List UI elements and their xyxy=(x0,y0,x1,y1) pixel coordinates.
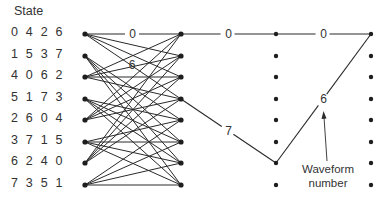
waveform-label: 6 xyxy=(320,92,327,106)
trellis-node xyxy=(82,182,87,187)
trellis-node xyxy=(274,75,278,79)
waveform-label: 0 xyxy=(320,27,327,41)
trellis-node xyxy=(369,161,373,165)
trellis-node xyxy=(274,97,278,101)
trellis-node xyxy=(274,183,278,187)
trellis-node xyxy=(274,54,278,58)
trellis-edge xyxy=(85,163,181,185)
trellis-node xyxy=(82,96,87,101)
waveform-label: 7 xyxy=(225,124,232,138)
trellis-node xyxy=(178,117,183,122)
waveform-label: 0 xyxy=(225,27,232,41)
annotation-arrow xyxy=(324,117,327,161)
trellis-node xyxy=(178,31,183,36)
trellis-node xyxy=(82,117,87,122)
trellis-node xyxy=(369,32,373,36)
path-edge xyxy=(181,99,222,126)
trellis-node xyxy=(178,160,183,165)
trellis-node xyxy=(274,161,278,165)
trellis-edges xyxy=(85,34,181,185)
waveform-label: 6 xyxy=(129,58,136,72)
path-edge xyxy=(276,105,318,163)
trellis-node xyxy=(274,32,278,36)
trellis-edge xyxy=(85,120,181,185)
annotation-text: number xyxy=(309,177,348,189)
trellis-node xyxy=(82,53,87,58)
waveform-number-annotation: Waveformnumber xyxy=(302,111,354,189)
trellis-node xyxy=(82,74,87,79)
trellis-node xyxy=(178,139,183,144)
trellis-edge xyxy=(85,34,181,163)
trellis-node xyxy=(369,140,373,144)
arrowhead-icon xyxy=(322,111,327,119)
trellis-node xyxy=(178,74,183,79)
trellis-node xyxy=(178,96,183,101)
trellis-node xyxy=(274,140,278,144)
trellis-node xyxy=(82,139,87,144)
trellis-node xyxy=(369,183,373,187)
trellis-diagram: 060076 Waveformnumber xyxy=(0,0,390,202)
trellis-node xyxy=(369,97,373,101)
trellis-node xyxy=(178,53,183,58)
trellis-node xyxy=(82,31,87,36)
trellis-node xyxy=(274,118,278,122)
trellis-node xyxy=(82,160,87,165)
trellis-edge xyxy=(85,77,181,163)
path-edge xyxy=(233,134,276,163)
annotation-text: Waveform xyxy=(302,163,354,175)
waveform-label: 0 xyxy=(129,27,136,41)
path-edge xyxy=(327,34,371,94)
trellis-node xyxy=(178,182,183,187)
trellis-node xyxy=(369,54,373,58)
trellis-node xyxy=(369,75,373,79)
trellis-node xyxy=(369,118,373,122)
